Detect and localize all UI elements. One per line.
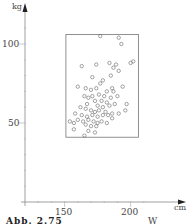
data-point bbox=[114, 63, 117, 66]
data-point bbox=[72, 128, 75, 131]
data-points bbox=[68, 34, 135, 137]
data-point bbox=[95, 124, 98, 127]
data-point bbox=[104, 110, 107, 113]
data-point bbox=[89, 124, 92, 127]
data-point bbox=[92, 120, 95, 123]
figure-caption: Abb. 2.75 bbox=[6, 216, 63, 224]
data-point bbox=[84, 107, 87, 110]
data-point bbox=[105, 90, 108, 93]
data-point bbox=[109, 96, 112, 99]
data-point bbox=[97, 109, 100, 112]
data-point bbox=[93, 99, 96, 102]
data-point bbox=[132, 60, 135, 63]
data-point bbox=[117, 69, 120, 72]
x-tick-label-200: 200 bbox=[121, 207, 138, 217]
scatter-chart: 100 50 150 200 kg cm bbox=[0, 0, 190, 224]
data-point bbox=[84, 87, 87, 90]
data-point bbox=[113, 102, 116, 105]
data-point bbox=[84, 123, 87, 126]
data-point bbox=[117, 36, 120, 39]
data-point bbox=[89, 109, 92, 112]
data-point bbox=[87, 96, 90, 99]
data-point bbox=[76, 85, 79, 88]
data-point bbox=[96, 104, 99, 107]
data-point bbox=[112, 66, 115, 69]
data-point bbox=[68, 120, 71, 123]
data-point bbox=[117, 112, 120, 115]
data-point bbox=[101, 113, 104, 116]
data-point bbox=[101, 106, 104, 109]
data-point bbox=[105, 121, 108, 124]
data-point bbox=[81, 120, 84, 123]
data-point bbox=[109, 74, 112, 77]
data-point bbox=[80, 113, 83, 116]
data-point bbox=[106, 113, 109, 116]
data-point bbox=[99, 82, 102, 85]
data-point bbox=[73, 112, 76, 115]
data-point bbox=[93, 131, 96, 134]
data-point bbox=[80, 64, 83, 67]
axes bbox=[19, 3, 186, 207]
data-point bbox=[76, 118, 79, 121]
data-point bbox=[110, 112, 113, 115]
data-point bbox=[91, 94, 94, 97]
data-point bbox=[89, 88, 92, 91]
data-point bbox=[101, 79, 104, 82]
data-point bbox=[87, 129, 90, 132]
data-point bbox=[110, 117, 113, 120]
data-point bbox=[72, 121, 75, 124]
data-point bbox=[91, 75, 94, 78]
bounding-box bbox=[66, 35, 139, 138]
data-point bbox=[87, 118, 90, 121]
data-point bbox=[108, 61, 111, 64]
data-point bbox=[116, 94, 119, 97]
data-point bbox=[100, 120, 103, 123]
data-point bbox=[100, 99, 103, 102]
data-point bbox=[85, 102, 88, 105]
data-point bbox=[120, 42, 123, 45]
data-point bbox=[125, 102, 128, 105]
data-point bbox=[105, 101, 108, 104]
data-point bbox=[97, 93, 100, 96]
data-point bbox=[124, 109, 127, 112]
data-point bbox=[91, 113, 94, 116]
y-tick-label-100: 100 bbox=[2, 39, 19, 49]
data-point bbox=[93, 110, 96, 113]
y-tick-label-50: 50 bbox=[8, 118, 20, 128]
data-point bbox=[108, 104, 111, 107]
figure-caption-fragment: W bbox=[148, 216, 157, 224]
data-point bbox=[121, 85, 124, 88]
data-point bbox=[112, 90, 115, 93]
data-point bbox=[95, 87, 98, 90]
data-point bbox=[83, 94, 86, 97]
data-point bbox=[95, 63, 98, 66]
data-point bbox=[103, 94, 106, 97]
data-point bbox=[96, 115, 99, 118]
y-axis-unit-label: kg bbox=[12, 2, 22, 11]
x-axis-unit-label: cm bbox=[174, 203, 186, 212]
data-point bbox=[79, 106, 82, 109]
